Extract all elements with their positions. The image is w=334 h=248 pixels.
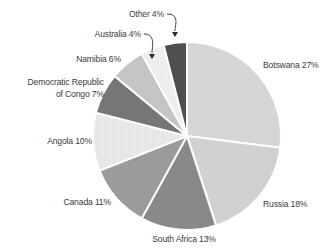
pie-texture-overlay — [93, 42, 281, 230]
pie-chart-figure: Botswana 27%Russia 18%South Africa 13%Ca… — [0, 0, 334, 248]
slice-label-democratic-republic-of-congo: Democratic Republicof Congo 7% — [28, 77, 105, 99]
slice-label-other: Other 4% — [129, 9, 165, 19]
slice-label-russia: Russia 18% — [263, 199, 308, 209]
leader-line-other — [167, 14, 176, 31]
slice-label-namibia: Namibia 6% — [76, 54, 121, 64]
slice-label-canada: Canada 11% — [63, 197, 111, 207]
slice-label-australia: Australia 4% — [95, 29, 142, 39]
leader-arrow-other — [172, 32, 178, 37]
slice-label-south-africa: South Africa 13% — [152, 234, 216, 244]
slice-label-botswana: Botswana 27% — [263, 60, 319, 70]
pie-chart-svg: Botswana 27%Russia 18%South Africa 13%Ca… — [0, 0, 334, 248]
pie-slice-texture — [187, 42, 281, 148]
slice-label-angola: Angola 10% — [47, 136, 92, 146]
